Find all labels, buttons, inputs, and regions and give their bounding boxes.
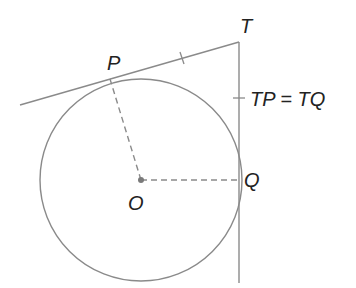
label-o: O <box>128 192 144 214</box>
tangent-line-tp <box>20 42 239 105</box>
equation-label: TP = TQ <box>250 88 325 110</box>
center-point <box>138 177 144 183</box>
label-t: T <box>240 15 254 37</box>
tangent-diagram: P T O Q TP = TQ <box>0 0 356 288</box>
label-p: P <box>107 52 121 74</box>
label-q: Q <box>244 169 260 191</box>
radius-op <box>110 79 141 180</box>
